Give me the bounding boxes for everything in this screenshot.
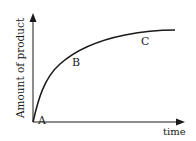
product-vs-time-chart: A B C time Amount of product <box>0 0 196 141</box>
x-axis-label: time <box>163 126 186 137</box>
product-curve <box>33 30 175 122</box>
y-axis-arrow-icon <box>30 13 37 22</box>
chart-canvas: A B C time Amount of product <box>0 0 196 141</box>
y-axis-label: Amount of product <box>14 17 26 119</box>
point-c-label: C <box>141 35 149 48</box>
x-axis-arrow-icon <box>176 119 185 126</box>
point-b-label: B <box>72 56 80 69</box>
point-a-label: A <box>37 114 47 127</box>
